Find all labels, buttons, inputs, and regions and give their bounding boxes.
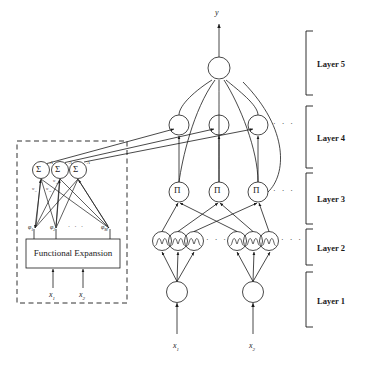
layer3-node-2-glyph: Π <box>214 185 221 195</box>
phi-label-2: φ2 <box>50 224 55 232</box>
phi-ellipsis: · · · <box>68 224 85 230</box>
layer3-node-1-glyph: Π <box>174 185 181 195</box>
layer-label-5: Layer 5 <box>317 59 345 69</box>
edges-layer3-layer4 <box>179 136 258 182</box>
phi-stems <box>34 229 110 239</box>
output-label: y <box>215 8 219 17</box>
layer5-node <box>208 57 230 79</box>
fe-input-arrows <box>53 269 83 288</box>
phi-label-2-sub: 2 <box>53 227 55 232</box>
input-arrows-layer1 <box>177 303 253 334</box>
network-input-x1: x1 <box>173 341 179 352</box>
network-input-x1-sub: 1 <box>177 347 180 352</box>
layer4-trailing-ellipsis: · · · <box>273 119 295 128</box>
network-architecture-diagram: y Π Π Π · · · · · · · · · · · · Σ A Σ A … <box>0 0 367 365</box>
fe-input-x1-sub: 1 <box>53 296 56 301</box>
layer2-trailing-ellipsis: · · · <box>281 235 303 244</box>
weight-label-1m: w1M <box>53 179 59 185</box>
weight-label-11: w11 <box>32 187 37 193</box>
layer4-node-1 <box>169 115 189 135</box>
edges-layer2-layer3 <box>162 203 269 232</box>
layer-label-1: Layer 1 <box>317 296 345 306</box>
fe-sum-node-2-superscript: A <box>69 160 72 165</box>
layer4-node-3 <box>248 115 268 135</box>
layer-label-4: Layer 4 <box>317 133 345 143</box>
fe-input-x1: x1 <box>49 290 55 301</box>
weight-label-11-sub: 11 <box>34 190 37 193</box>
layer1-node-1 <box>167 282 188 303</box>
fe-input-x2-sub: 2 <box>83 296 86 301</box>
layer-label-2: Layer 2 <box>317 243 345 253</box>
fe-sum-node-2-glyph: Σ <box>55 164 60 174</box>
layer1-node-2 <box>243 282 264 303</box>
layer2-inner-ellipsis: · · · <box>206 235 228 244</box>
network-input-x2-sub: 2 <box>253 347 256 352</box>
phi-label-1-sub: 1 <box>31 227 33 232</box>
weight-label-1m-sub: 1M <box>55 182 59 185</box>
layer3-node-3-glyph: Π <box>253 185 260 195</box>
fe-sum-node-1-glyph: Σ <box>36 164 41 174</box>
phi-label-m: φM <box>101 224 108 232</box>
fe-sum-node-3-superscript: A <box>87 160 90 165</box>
network-input-x2: x2 <box>249 341 255 352</box>
layer-brackets <box>306 31 313 327</box>
layer3-trailing-ellipsis: · · · <box>273 186 295 195</box>
layer-label-3: Layer 3 <box>317 194 345 204</box>
fe-sum-node-3-glyph: Σ <box>73 164 78 174</box>
edges-layer1-layer2 <box>162 252 270 282</box>
fe-box-title: Functional Expansion <box>30 248 116 258</box>
weight-label-12: w12 <box>46 187 51 193</box>
fe-input-x2: x2 <box>79 290 85 301</box>
phi-label-1: φ1 <box>28 224 33 232</box>
phi-label-m-sub: M <box>104 227 107 232</box>
weight-label-12-sub: 12 <box>48 190 51 193</box>
edges-layer3-layer5 <box>179 80 281 192</box>
fe-sum-node-1-superscript: A <box>50 160 53 165</box>
